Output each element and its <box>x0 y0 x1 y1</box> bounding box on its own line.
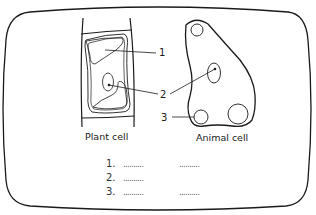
animal-vacuole-small <box>191 24 203 36</box>
animal-nucleus <box>208 63 221 83</box>
answer-list: 1. .......... .......... 2. .......... 3… <box>106 158 199 197</box>
cell-wall-bottom <box>82 116 134 118</box>
answer-number-2: 2. <box>106 172 116 183</box>
cell-membrane <box>85 34 130 113</box>
animal-cell: Animal cell <box>186 20 256 143</box>
cytoplasm-boundary <box>88 37 127 110</box>
plant-nucleus <box>103 73 114 91</box>
plant-cell: Plant cell <box>81 18 134 142</box>
answer-number-3: 3. <box>106 186 116 197</box>
answer-blank-1-right[interactable]: .......... <box>179 160 199 169</box>
animal-vacuole-right <box>228 104 248 124</box>
answer-number-1: 1. <box>106 158 116 169</box>
label-3: 3 <box>161 112 167 123</box>
animal-cell-caption: Animal cell <box>196 132 248 143</box>
answer-blank-3-right[interactable]: .......... <box>179 188 199 197</box>
leader-line-2-animal <box>170 69 215 94</box>
cell-wall-top <box>81 30 132 34</box>
labels: 1 2 3 <box>105 47 215 123</box>
plant-cell-caption: Plant cell <box>85 131 128 142</box>
answer-blank-3-left[interactable]: .......... <box>123 188 143 197</box>
label-1: 1 <box>159 47 165 58</box>
answer-blank-1-left[interactable]: .......... <box>123 160 143 169</box>
animal-vacuole-left <box>194 110 208 124</box>
cell-diagram: Plant cell Animal cell 1 2 3 1. ........… <box>0 0 316 215</box>
label-2: 2 <box>160 89 166 100</box>
answer-blank-2-left[interactable]: .......... <box>123 174 143 183</box>
frame-border <box>3 7 311 210</box>
cell-wall-right <box>130 18 134 127</box>
